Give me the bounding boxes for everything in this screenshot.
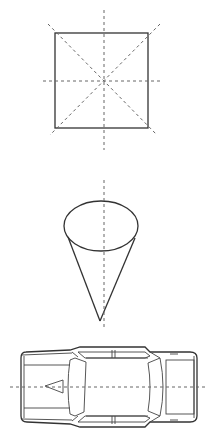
square-diagonal-axis-1 bbox=[48, 24, 157, 135]
cone-base-ellipse bbox=[64, 201, 138, 251]
car-fender-top bbox=[22, 353, 72, 355]
square-figure bbox=[43, 10, 162, 150]
car-side-windows-top bbox=[78, 352, 150, 358]
car-a-pillar-bottom bbox=[72, 416, 78, 421]
car-c-pillar-bottom bbox=[150, 416, 160, 422]
cone-left-side bbox=[68, 237, 100, 321]
car-figure bbox=[10, 347, 206, 427]
symmetry-diagram bbox=[0, 0, 208, 436]
square-diagonal-axis-2 bbox=[50, 24, 160, 135]
car-side-windows-bottom bbox=[78, 416, 150, 422]
car-fender-bottom bbox=[22, 419, 72, 420]
cone-figure bbox=[64, 180, 138, 330]
car-a-pillar-top bbox=[72, 352, 78, 357]
car-c-pillar-top bbox=[150, 352, 160, 358]
